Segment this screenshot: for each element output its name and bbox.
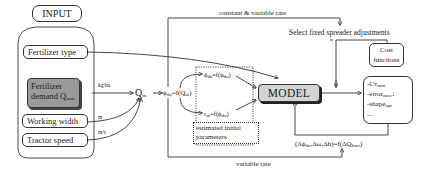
cost-item-error: -errormax↓ — [367, 89, 409, 99]
unit-speed: m/s — [98, 128, 106, 137]
cost-functions-title: Cost functions — [369, 43, 404, 67]
fertilizer-demand-box: Fertilizer demand Qbact — [27, 78, 80, 108]
model-box: MODEL — [258, 84, 320, 102]
cost-functions-list: -Cvmin -errormax↓ -shapeopt ... — [363, 76, 413, 124]
delta-formula: (Δϕdo,Δω,Δh)=f(ΔQbact) — [295, 140, 362, 149]
input-title: INPUT — [32, 5, 82, 22]
estimated-parameters-caption: estimated initial parameters — [193, 122, 259, 144]
cost-item-more: ... — [367, 109, 409, 119]
fertilizer-type-box: Fertilizer type — [23, 45, 88, 59]
phi-da-formula: ϕda=f(ϕdo) — [204, 70, 231, 79]
unit-demand: kg/ha — [98, 81, 110, 90]
select-fixed-adjustments-label: Select fixed spreader adjustments — [289, 28, 390, 37]
cost-item-cv: -Cvmin — [367, 79, 409, 89]
qm-label: Qm — [135, 88, 146, 97]
working-width-box: Working width — [22, 114, 88, 128]
unit-width: m — [98, 113, 102, 122]
tractor-speed-box: Tractor speed — [22, 133, 88, 147]
variable-rate-label: variable rate — [236, 160, 271, 169]
r-m-formula: rm=f(ϕdo) — [204, 109, 229, 118]
constant-variable-rate-label: constant & variable rate — [219, 9, 286, 18]
phi-formula: ϕdo=f(Qm) — [163, 89, 192, 98]
arrow-down-icon: ↓ — [392, 90, 396, 98]
cost-item-shape: -shapeopt — [367, 99, 409, 109]
